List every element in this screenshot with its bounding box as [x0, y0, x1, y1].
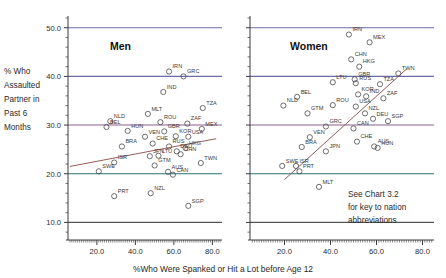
- data-point-label-rou: ROU: [164, 114, 176, 120]
- data-point-mex[interactable]: [367, 40, 372, 45]
- data-point-che[interactable]: [354, 139, 359, 144]
- data-point-label-mlt: MLT: [151, 106, 162, 112]
- data-point-prt[interactable]: [297, 169, 302, 174]
- data-point-che[interactable]: [150, 141, 155, 146]
- x-tick-label-20.0: 20.0: [277, 247, 292, 256]
- data-point-ind[interactable]: [161, 89, 166, 94]
- data-point-label-kor: KOR: [179, 128, 191, 134]
- data-point-hun[interactable]: [375, 145, 380, 150]
- data-point-label-gbr: GBR: [168, 123, 180, 129]
- data-point-label-gtm: GTM: [311, 105, 324, 111]
- data-point-usa[interactable]: [186, 134, 191, 139]
- y-tick-label-50.0: 50.0: [46, 24, 61, 33]
- data-point-zaf[interactable]: [381, 96, 386, 101]
- data-point-rou[interactable]: [158, 120, 163, 125]
- y-tick-label-30.0: 30.0: [46, 121, 61, 130]
- data-point-label-can: CAN: [357, 120, 369, 126]
- data-point-mlt[interactable]: [316, 184, 321, 189]
- data-point-label-bel: BEL: [110, 119, 121, 125]
- data-point-label-bra: BRA: [125, 138, 137, 144]
- data-point-tza[interactable]: [377, 82, 382, 87]
- data-point-twn[interactable]: [198, 160, 203, 165]
- chart-page: 20.040.060.080.010.020.030.040.050.0MenI…: [0, 0, 446, 278]
- data-point-label-chn: CHN: [184, 146, 196, 152]
- data-point-twn[interactable]: [396, 71, 401, 76]
- chart-note-line-3: abbreviations: [348, 216, 397, 225]
- data-point-nzl[interactable]: [362, 111, 367, 116]
- data-point-bra[interactable]: [119, 144, 124, 149]
- data-point-label-zaf: ZAF: [191, 115, 202, 121]
- data-point-chn[interactable]: [349, 57, 354, 62]
- y-tick-label-40.0: 40.0: [46, 72, 61, 81]
- data-point-label-nzl: NZL: [154, 185, 165, 191]
- data-point-can[interactable]: [351, 126, 356, 131]
- data-point-isr[interactable]: [293, 163, 298, 168]
- data-point-label-rus: RUS: [359, 75, 371, 81]
- data-point-label-tza: TZA: [383, 76, 394, 82]
- data-point-swe[interactable]: [96, 169, 101, 174]
- y-axis-label-line-3: Partner in: [4, 95, 40, 104]
- data-point-label-ltu: LTU: [336, 74, 346, 80]
- data-point-gtm[interactable]: [305, 111, 310, 116]
- data-point-label-bra: BRA: [305, 139, 317, 145]
- data-point-deu[interactable]: [370, 116, 375, 121]
- data-point-label-mex: MEX: [205, 121, 217, 127]
- x-tick-label-40.0: 40.0: [323, 247, 338, 256]
- data-point-label-ven: VEN: [313, 129, 325, 135]
- data-point-mlt[interactable]: [145, 111, 150, 116]
- data-point-chn[interactable]: [178, 152, 183, 157]
- data-point-label-rou: ROU: [336, 97, 348, 103]
- scatter-chart-figure: 20.040.060.080.010.020.030.040.050.0MenI…: [0, 0, 446, 278]
- data-point-rou[interactable]: [330, 103, 335, 108]
- data-point-label-che: CHE: [156, 135, 168, 141]
- data-point-swe[interactable]: [280, 163, 285, 168]
- data-point-label-swe: SWE: [286, 158, 299, 164]
- data-point-label-prt: PRT: [303, 163, 315, 169]
- x-tick-label-60.0: 60.0: [166, 247, 181, 256]
- data-point-nzl[interactable]: [148, 191, 153, 196]
- data-point-label-che: CHE: [360, 133, 372, 139]
- data-point-label-gtm: GTM: [158, 157, 171, 163]
- y-axis-label-line-1: % Who: [4, 67, 31, 76]
- data-point-label-usa: USA: [359, 98, 371, 104]
- data-point-irn[interactable]: [166, 69, 171, 74]
- data-point-sgp[interactable]: [186, 203, 191, 208]
- data-point-prt[interactable]: [112, 194, 117, 199]
- data-point-label-chn: CHN: [355, 51, 367, 57]
- data-point-bra[interactable]: [299, 144, 304, 149]
- data-point-label-tza: TZA: [206, 100, 217, 106]
- panel-title-women: Women: [290, 40, 328, 52]
- x-tick-label-60.0: 60.0: [369, 247, 384, 256]
- data-point-aus[interactable]: [372, 144, 377, 149]
- data-point-kor[interactable]: [356, 92, 361, 97]
- data-point-label-deu: DEU: [377, 111, 389, 117]
- data-point-ltu[interactable]: [330, 80, 335, 85]
- data-point-hun[interactable]: [125, 128, 130, 133]
- data-point-label-prt: PRT: [118, 188, 130, 194]
- data-point-gtm[interactable]: [152, 163, 157, 168]
- data-point-irn[interactable]: [346, 32, 351, 37]
- data-point-label-ltu: LTU: [162, 148, 172, 154]
- data-point-label-ven: VEN: [149, 129, 161, 135]
- data-point-usa[interactable]: [353, 104, 358, 109]
- data-point-can[interactable]: [170, 172, 175, 177]
- data-point-gbr[interactable]: [162, 129, 167, 134]
- data-point-label-sgp: SGP: [392, 113, 404, 119]
- chart-note-line-1: See Chart 3.2: [348, 190, 399, 199]
- data-point-sgp[interactable]: [385, 119, 390, 124]
- data-point-label-grc: GRC: [329, 118, 341, 124]
- data-point-label-ind: IND: [370, 88, 380, 94]
- data-point-label-zaf: ZAF: [387, 90, 398, 96]
- data-point-label-jpn: JPN: [329, 143, 340, 149]
- data-point-label-hun: HUN: [381, 140, 393, 146]
- data-point-jpn[interactable]: [323, 149, 328, 154]
- x-axis-title: %Who Were Spanked or Hit a Lot before Ag…: [133, 264, 313, 274]
- data-point-tza[interactable]: [200, 105, 205, 110]
- data-point-label-usa: USA: [192, 129, 204, 135]
- panel-title-men: Men: [110, 40, 131, 52]
- data-point-jpn[interactable]: [147, 154, 152, 159]
- data-point-ven[interactable]: [142, 134, 147, 139]
- data-point-nld[interactable]: [281, 103, 286, 108]
- data-point-hkg[interactable]: [357, 64, 362, 69]
- x-tick-label-40.0: 40.0: [128, 247, 143, 256]
